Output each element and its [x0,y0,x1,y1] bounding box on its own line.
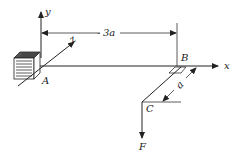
bracket-diagram: y z 3a - B x A C a F [0,0,242,159]
dimension-a-lower [163,90,174,101]
dimension-3a-dash: - [97,27,101,38]
dimension-a-label: a [174,79,186,91]
point-a-label: A [41,75,49,86]
point-c-label: C [146,103,154,114]
force-f-label: F [138,141,147,152]
dimension-a-upper [186,68,196,78]
y-axis-label: y [44,6,51,17]
wall-support [14,52,40,79]
point-b-label: B [180,52,188,63]
dimension-3a-label: 3a [103,27,115,38]
x-axis-label: x [224,60,230,71]
z-axis-label: z [66,33,78,46]
